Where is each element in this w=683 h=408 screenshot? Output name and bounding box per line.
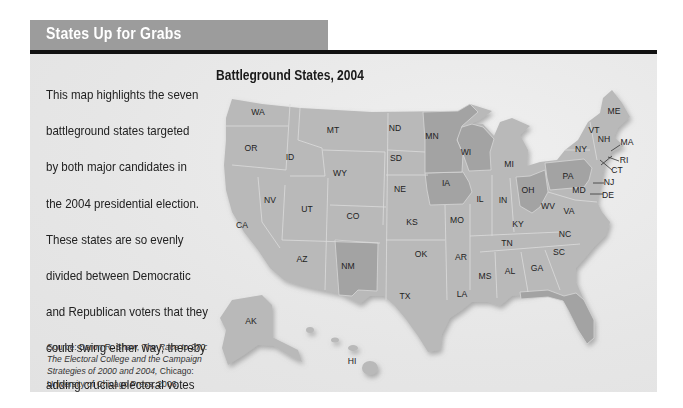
state-label-mo: MO [450,215,464,225]
state-label-sc: SC [553,247,565,257]
state-label-or: OR [245,143,258,153]
state-label-de: DE [602,190,614,200]
state-label-wv: WV [541,201,555,211]
state-label-ma: MA [621,137,634,147]
state-label-pa: PA [563,171,574,181]
state-label-ky: KY [512,219,524,229]
state-label-tn: TN [501,238,512,248]
state-label-ne: NE [394,184,406,194]
state-label-md: MD [572,185,585,195]
state-label-ca: CA [236,220,248,230]
state-label-oh: OH [522,185,535,195]
state-label-ak: AK [245,316,257,326]
state-label-ut: UT [301,204,313,214]
state-label-nj: NJ [604,177,615,187]
state-label-al: AL [505,266,516,276]
state-label-va: VA [564,206,575,216]
state-label-ks: KS [406,217,418,227]
state-label-in: IN [499,195,508,205]
state-label-nm: NM [341,261,354,271]
state-label-co: CO [347,211,360,221]
state-label-ct: CT [611,165,623,175]
state-label-ny: NY [575,144,587,154]
state-label-mn: MN [425,131,438,141]
hawaii-shape [306,327,378,375]
us-map: WAORIDMTWYNDSDNEMNWIIAMIILINOHPANYVTNHME… [0,0,683,408]
state-label-mt: MT [327,125,340,135]
state-label-ok: OK [415,249,428,259]
state-label-ia: IA [442,178,450,188]
state-label-az: AZ [297,254,308,264]
state-label-wa: WA [251,107,265,117]
state-label-wi: WI [461,147,472,157]
state-label-ga: GA [531,263,544,273]
state-label-nv: NV [264,195,276,205]
state-label-ms: MS [479,271,492,281]
state-label-me: ME [608,106,621,116]
state-label-il: IL [476,194,483,204]
state-label-mi: MI [504,159,514,169]
alaska-shape [220,295,302,365]
state-label-nc: NC [559,229,571,239]
state-label-nd: ND [389,123,401,133]
state-label-sd: SD [390,153,402,163]
state-label-la: LA [457,289,468,299]
state-label-ri: RI [620,155,629,165]
state-label-wy: WY [333,168,347,178]
state-label-nh: NH [598,134,610,144]
state-label-hi: HI [348,356,357,366]
state-label-ar: AR [455,252,467,262]
state-label-tx: TX [400,291,411,301]
state-ia [425,172,472,205]
state-label-id: ID [286,152,295,162]
